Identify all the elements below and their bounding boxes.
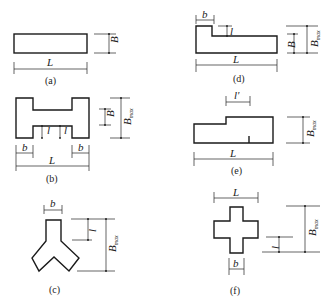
- max-width-label: Bmax: [106, 235, 119, 252]
- caption-f: (f): [230, 285, 240, 297]
- wing-label-b-left: b: [22, 141, 28, 153]
- panel-f: L b l Bmax (f): [214, 186, 320, 297]
- caption-b: (b): [46, 173, 58, 185]
- panel-e: l' Bmax L (e): [194, 89, 317, 177]
- arm-label-b: b: [50, 197, 56, 209]
- panel-d: b l B Bmax L (d): [196, 8, 321, 85]
- width-label-B: B: [108, 36, 120, 43]
- arm-label-b: b: [233, 257, 239, 269]
- length-label-L: L: [232, 186, 239, 198]
- offset-label-l-prime: l': [234, 89, 240, 101]
- stepped-shape: [194, 117, 273, 143]
- width-label-B: B: [285, 41, 297, 48]
- wing-label-b: b: [202, 8, 208, 20]
- projection-label-l-left: l: [47, 124, 50, 136]
- max-width-label: Bmax: [121, 108, 134, 125]
- length-label-L: L: [232, 53, 239, 65]
- h-shape: [16, 98, 89, 138]
- caption-d: (d): [233, 73, 245, 85]
- caption-a: (a): [45, 75, 56, 87]
- width-label-B: B: [104, 110, 116, 117]
- y-shape: [32, 220, 79, 271]
- cross-shape: [214, 207, 258, 253]
- panel-b: l l B Bmax b b L (b): [16, 97, 134, 185]
- building-plan-shapes-figure: B L (a) l l B Bmax b: [0, 0, 332, 306]
- length-label-L: L: [46, 56, 53, 68]
- wing-label-b-right: b: [78, 141, 84, 153]
- panel-c: b l Bmax (c): [32, 197, 119, 296]
- projection-label-l-right: l: [64, 124, 67, 136]
- panel-a: B L (a): [14, 33, 120, 87]
- projection-label-l: l: [269, 246, 281, 249]
- length-label-L: L: [48, 154, 55, 166]
- projection-label-l: l: [230, 25, 233, 37]
- caption-c: (c): [49, 284, 60, 296]
- caption-e: (e): [231, 165, 242, 177]
- projection-label-l: l: [86, 229, 98, 232]
- l-shape: [196, 26, 277, 53]
- max-width-label: Bmax: [308, 30, 321, 47]
- figure-svg: B L (a) l l B Bmax b: [0, 0, 332, 306]
- max-width-label: Bmax: [306, 219, 319, 236]
- rectangle-shape: [14, 34, 87, 53]
- max-width-label: Bmax: [304, 120, 317, 137]
- length-label-L: L: [229, 147, 236, 159]
